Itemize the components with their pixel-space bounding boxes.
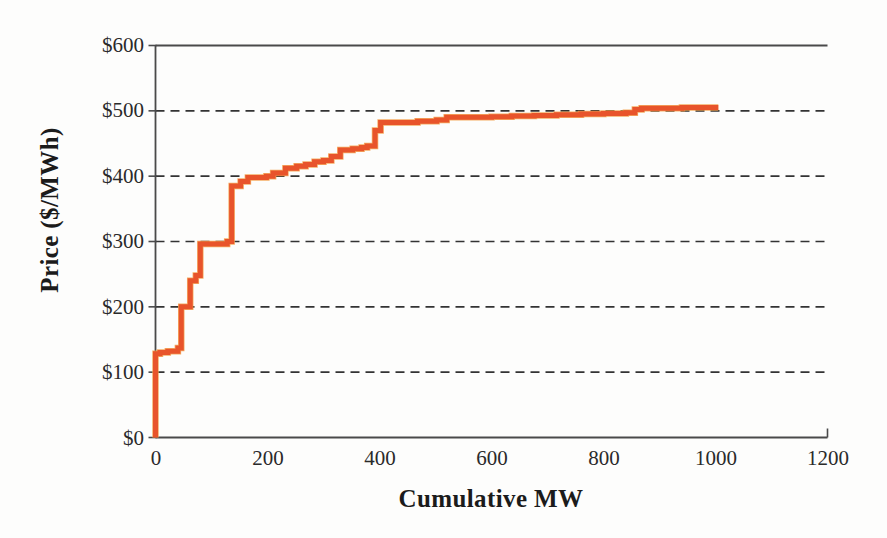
gridlines-group bbox=[156, 111, 828, 372]
data-series-group bbox=[156, 108, 719, 438]
supply-curve-line bbox=[156, 108, 719, 438]
supply-curve-chart: Price ($/MWh) Cumulative MW $600 $500 $4… bbox=[0, 0, 887, 538]
series-halo bbox=[156, 108, 719, 438]
plot-area bbox=[0, 0, 887, 538]
